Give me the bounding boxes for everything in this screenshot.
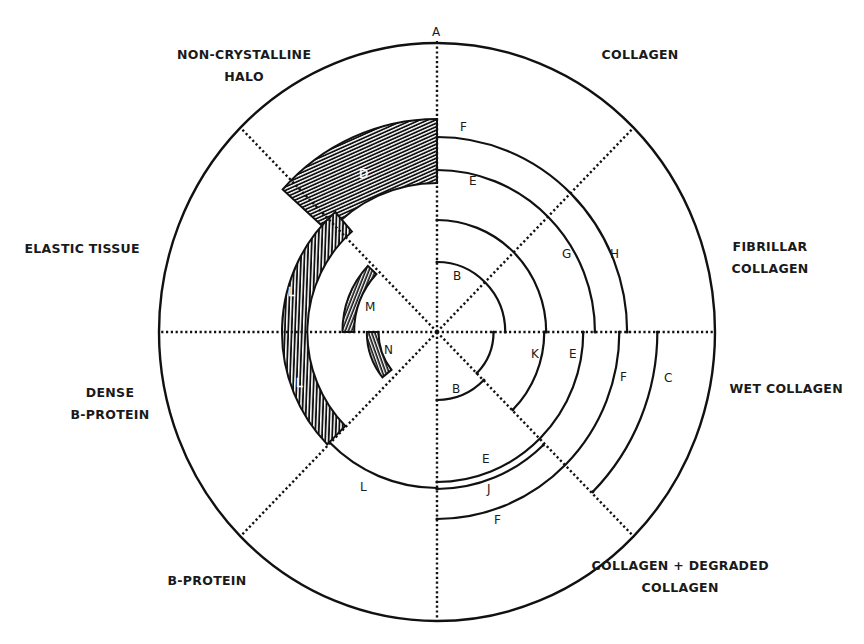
arc-label-n: N bbox=[384, 343, 393, 357]
radial-divider-315 bbox=[437, 332, 634, 536]
axis-label-a: A bbox=[432, 25, 441, 39]
sector-label-fibrillar-collagen: FIBRILLARCOLLAGEN bbox=[732, 236, 809, 280]
arc-l-11 bbox=[329, 442, 437, 488]
sector-label-collagen-degraded: COLLAGEN + DEGRADEDCOLLAGEN bbox=[592, 555, 769, 599]
arc-label-k: K bbox=[531, 347, 540, 361]
sector-label-line: FIBRILLAR bbox=[732, 236, 809, 258]
sector-label-line: COLLAGEN + DEGRADED bbox=[592, 555, 769, 577]
arc-label-e: E bbox=[569, 347, 577, 361]
sector-label-collagen: COLLAGEN bbox=[602, 44, 679, 66]
arc-k-6 bbox=[513, 332, 544, 410]
sector-label-wet-collagen: WET COLLAGEN bbox=[730, 378, 843, 400]
arc-label-h: H bbox=[610, 247, 619, 261]
sector-label-line: ELASTIC TISSUE bbox=[25, 238, 140, 260]
band-label-d: D bbox=[359, 167, 368, 181]
arc-7 bbox=[437, 332, 583, 482]
sector-label-line: B-PROTEIN bbox=[71, 404, 150, 426]
arc-label-f: F bbox=[620, 370, 627, 384]
hatched-band-L bbox=[282, 212, 352, 444]
band-label-l: L bbox=[288, 285, 295, 299]
arc-label-j: J bbox=[486, 482, 491, 496]
x-ray-diffraction-pattern-diagram: BEFBKCLGHEFEJFMNDLL A bbox=[0, 0, 864, 644]
arc-label-c: C bbox=[664, 371, 672, 385]
sector-label-line: HALO bbox=[177, 66, 311, 88]
arc-b-5 bbox=[437, 380, 484, 400]
band-label-l-2: L bbox=[296, 376, 303, 390]
arc-label-b: B bbox=[452, 382, 460, 396]
arc-label-e: E bbox=[469, 174, 477, 188]
sector-label-line: B-PROTEIN bbox=[168, 570, 247, 592]
arc-label-e: E bbox=[482, 452, 490, 466]
sector-label-line: NON-CRYSTALLINE bbox=[177, 44, 311, 66]
sector-label-non-crystalline-halo: NON-CRYSTALLINEHALO bbox=[177, 44, 311, 88]
sector-label-dense-b-protein: DENSEB-PROTEIN bbox=[71, 382, 150, 426]
arc-label-l: L bbox=[360, 480, 367, 494]
sector-label-elastic-tissue: ELASTIC TISSUE bbox=[25, 238, 140, 260]
sector-label-b-protein: B-PROTEIN bbox=[168, 570, 247, 592]
sector-label-line: WET COLLAGEN bbox=[730, 378, 843, 400]
sector-label-line: COLLAGEN bbox=[592, 577, 769, 599]
arc-label-f: F bbox=[460, 120, 467, 134]
sector-label-line: COLLAGEN bbox=[732, 258, 809, 280]
arc-4 bbox=[477, 332, 494, 373]
hatched-band-M bbox=[342, 266, 376, 332]
arc-label-f: F bbox=[494, 513, 501, 527]
radial-divider-45 bbox=[437, 128, 634, 332]
sector-label-line: DENSE bbox=[71, 382, 150, 404]
arc-label-m: M bbox=[365, 300, 375, 314]
arc-label-b: B bbox=[453, 269, 461, 283]
arc-label-g: G bbox=[562, 247, 571, 261]
sector-label-line: COLLAGEN bbox=[602, 44, 679, 66]
